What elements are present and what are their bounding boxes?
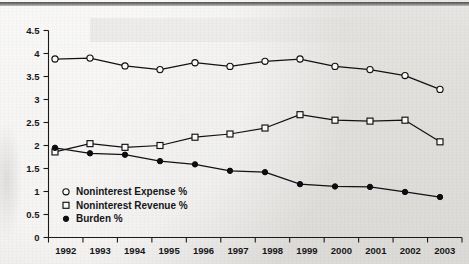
- data-point-marker: [262, 169, 267, 174]
- data-point-marker: [367, 118, 373, 124]
- data-point-marker: [227, 168, 232, 173]
- y-axis-tick-label: 0.5: [26, 209, 40, 220]
- data-point-marker: [192, 134, 198, 140]
- x-axis-tick-label: 2002: [400, 245, 421, 256]
- legend-label: Noninterest Revenue %: [76, 200, 188, 211]
- data-point-marker: [437, 194, 442, 199]
- data-point-marker: [367, 67, 373, 73]
- series-line: [55, 58, 440, 89]
- data-point-marker: [262, 58, 268, 64]
- y-axis-tick-label: 2.5: [26, 117, 40, 128]
- data-point-marker: [63, 189, 69, 195]
- data-point-marker: [87, 151, 92, 156]
- series-2: [52, 112, 443, 155]
- x-axis-tick-label: 2001: [365, 245, 387, 256]
- x-axis-tick-label: 1993: [90, 245, 111, 256]
- y-axis-tick-label: 4: [34, 48, 40, 59]
- y-axis-tick-label: 2: [34, 140, 39, 151]
- data-point-marker: [63, 202, 69, 208]
- data-point-marker: [122, 144, 128, 150]
- data-point-marker: [227, 131, 233, 137]
- x-axis-tick-label: 1992: [55, 245, 76, 256]
- y-axis-tick-label: 4.5: [26, 25, 40, 36]
- data-point-marker: [52, 56, 58, 62]
- chart-legend: Noninterest Expense %Noninterest Revenue…: [63, 186, 188, 224]
- data-point-marker: [63, 216, 68, 221]
- x-axis-tick-label: 1995: [159, 245, 181, 256]
- legend-item: Burden %: [63, 213, 122, 224]
- x-axis-tick-label: 1994: [124, 245, 146, 256]
- legend-item: Noninterest Revenue %: [63, 200, 188, 211]
- data-point-marker: [157, 158, 162, 163]
- data-point-marker: [437, 86, 443, 92]
- legend-label: Burden %: [76, 213, 123, 224]
- y-axis-tick-label: 1: [34, 186, 40, 197]
- data-point-marker: [297, 181, 302, 186]
- data-point-marker: [332, 63, 338, 69]
- series-layer: [52, 55, 443, 200]
- data-point-marker: [192, 162, 197, 167]
- data-point-marker: [437, 139, 443, 145]
- data-point-marker: [87, 141, 93, 147]
- x-axis-tick-label: 1996: [193, 245, 214, 256]
- data-point-marker: [332, 184, 337, 189]
- y-axis-tick-label: 1.5: [26, 163, 40, 174]
- data-point-marker: [262, 125, 268, 131]
- x-axis-tick-label: 2000: [331, 245, 352, 256]
- line-chart: 00.511.522.533.544.5 1992199319941995199…: [0, 0, 469, 264]
- data-point-marker: [332, 117, 338, 123]
- data-point-marker: [87, 55, 93, 61]
- legend-label: Noninterest Expense %: [76, 186, 187, 197]
- x-axis-tick-label: 1997: [227, 245, 248, 256]
- y-axis: 00.511.522.533.544.5: [26, 25, 48, 243]
- y-axis-tick-label: 0: [34, 232, 39, 243]
- data-point-marker: [192, 60, 198, 66]
- data-point-marker: [297, 112, 303, 118]
- data-point-marker: [122, 152, 127, 157]
- data-point-marker: [157, 67, 163, 73]
- series-1: [52, 55, 443, 92]
- legend-item: Noninterest Expense %: [63, 186, 187, 197]
- x-axis-tick-label: 1998: [262, 245, 283, 256]
- data-point-marker: [122, 63, 128, 69]
- series-line: [55, 115, 440, 152]
- data-point-marker: [157, 143, 163, 149]
- y-axis-tick-label: 3: [34, 94, 39, 105]
- data-point-marker: [402, 189, 407, 194]
- data-point-marker: [402, 117, 408, 123]
- data-point-marker: [297, 56, 303, 62]
- y-axis-tick-label: 3.5: [26, 71, 40, 82]
- data-point-marker: [367, 184, 372, 189]
- data-point-marker: [52, 145, 57, 150]
- x-axis-tick-label: 2003: [434, 245, 455, 256]
- data-point-marker: [402, 72, 408, 78]
- chart-page: 00.511.522.533.544.5 1992199319941995199…: [0, 0, 469, 264]
- data-point-marker: [227, 63, 233, 69]
- x-axis-tick-label: 1999: [296, 245, 317, 256]
- x-axis: 1992199319941995199619971998199920002001…: [49, 238, 463, 256]
